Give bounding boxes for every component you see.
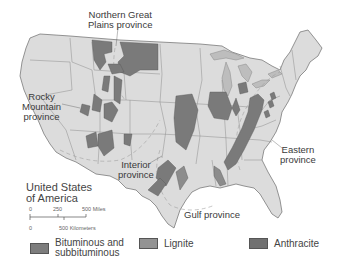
legend-anthracite-label: Anthracite [274,239,319,249]
scale-km-500: 500 Kilometers [59,225,96,231]
label-rocky-mountain: Rocky Mountain province [22,92,61,122]
label-gulf: Gulf province [184,210,240,220]
legend-label-line: subbituminous [55,248,124,258]
map-title: United States of America [26,182,92,204]
label-line: province [22,112,61,122]
scale-miles-0: 0 [29,206,32,212]
legend-lignite-label: Lignite [164,239,193,249]
label-line: Plains province [88,20,152,30]
label-line: province [118,170,154,180]
map-title-line2: of America [26,193,92,204]
scale-km-0: 0 [29,225,32,231]
scale-bar [30,214,86,220]
label-eastern: Eastern province [280,145,316,165]
anthracite-swatch [249,238,268,249]
bituminous-swatch [30,243,49,254]
lignite-swatch [139,238,158,249]
legend-bituminous: Bituminous and subbituminous [30,238,124,258]
label-interior: Interior province [118,160,154,180]
scale-miles-250: 250 [53,206,62,212]
legend-bituminous-label: Bituminous and subbituminous [55,238,124,258]
label-northern-great-plains: Northern Great Plains province [88,10,152,30]
legend-lignite: Lignite [139,238,193,249]
label-line: province [280,155,316,165]
coal-map [0,0,347,264]
scale-miles-500: 500 Miles [82,206,106,212]
legend-anthracite: Anthracite [249,238,319,249]
